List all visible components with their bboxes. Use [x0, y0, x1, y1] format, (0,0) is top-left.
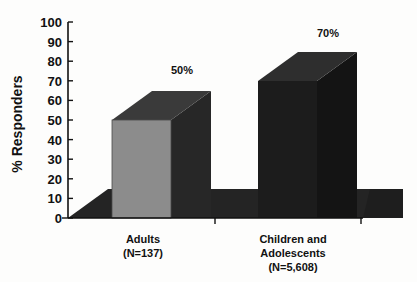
y-tick-label-80: 80: [48, 54, 62, 69]
y-axis-title: % Responders: [9, 75, 25, 172]
bar-children-side-face: [317, 52, 357, 218]
bar-chart-3d: 100 90 80 70 60 50 40 30 20 10 0 % Respo…: [0, 0, 417, 282]
category-label-adults: Adults (N=137): [123, 233, 163, 259]
category-children-line2: Adolescents: [260, 247, 325, 259]
bar-adults-group[interactable]: [112, 91, 211, 218]
y-tick-label-10: 10: [48, 191, 62, 206]
bar-adults-value-label: 50%: [171, 64, 193, 76]
y-tick-label-50: 50: [48, 113, 62, 128]
category-children-line3: (N=5,608): [268, 261, 318, 273]
chart-container: 100 90 80 70 60 50 40 30 20 10 0 % Respo…: [0, 0, 417, 282]
category-adults-line2: (N=137): [123, 247, 163, 259]
category-label-children: Children and Adolescents (N=5,608): [259, 233, 326, 273]
y-tick-label-90: 90: [48, 35, 62, 50]
y-tick-label-20: 20: [48, 172, 62, 187]
y-tick-label-40: 40: [48, 133, 62, 148]
x-tick-marks: [215, 218, 361, 224]
y-tick-label-100: 100: [40, 15, 62, 30]
y-tick-labels: 100 90 80 70 60 50 40 30 20 10 0: [40, 15, 62, 226]
y-tick-label-60: 60: [48, 93, 62, 108]
bar-children-value-label: 70%: [317, 27, 339, 39]
bar-adults-front-face: [112, 120, 171, 218]
bar-children-group[interactable]: [258, 52, 357, 218]
y-tick-label-70: 70: [48, 74, 62, 89]
y-tick-label-30: 30: [48, 152, 62, 167]
bar-children-front-face: [258, 81, 317, 218]
floor-right-wedge: [363, 189, 403, 218]
category-adults-line1: Adults: [126, 233, 160, 245]
y-tick-label-0: 0: [55, 211, 62, 226]
category-children-line1: Children and: [259, 233, 326, 245]
